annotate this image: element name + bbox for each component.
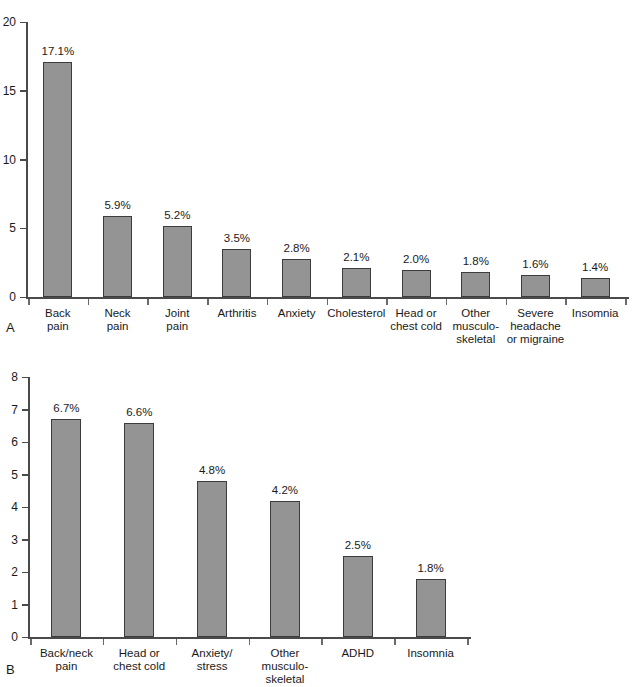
y-axis-line bbox=[28, 377, 30, 639]
bar-value-label: 6.7% bbox=[36, 403, 96, 415]
x-axis-category-label: Severe headache or migraine bbox=[502, 307, 570, 346]
y-axis-tick bbox=[22, 442, 28, 444]
bar bbox=[342, 268, 371, 297]
bar bbox=[282, 259, 311, 298]
y-axis-tick-label: 3 bbox=[0, 534, 18, 546]
x-axis-category-label: Other musculo- skeletal bbox=[442, 307, 510, 346]
bar-value-label: 4.2% bbox=[255, 485, 315, 497]
y-axis-tick-label: 7 bbox=[0, 404, 18, 416]
bar bbox=[43, 62, 72, 297]
bar bbox=[402, 270, 431, 298]
bar-value-label: 1.6% bbox=[505, 259, 565, 271]
x-axis-category-label: Head or chest cold bbox=[99, 647, 180, 673]
bar-value-label: 1.8% bbox=[401, 563, 461, 575]
x-axis-tick bbox=[467, 639, 469, 645]
x-axis-tick bbox=[506, 299, 508, 305]
bar-value-label: 5.2% bbox=[147, 210, 207, 222]
bar bbox=[51, 419, 81, 637]
bar-value-label: 17.1% bbox=[28, 46, 88, 58]
y-axis-tick bbox=[20, 90, 26, 92]
chart-panel-a: A 0510152017.1%Back pain5.9%Neck pain5.2… bbox=[0, 0, 633, 350]
bar bbox=[222, 249, 251, 297]
bar bbox=[416, 579, 446, 638]
x-axis-tick bbox=[28, 299, 30, 305]
y-axis-tick-label: 0 bbox=[0, 291, 16, 303]
y-axis-tick bbox=[20, 159, 26, 161]
bar-value-label: 1.8% bbox=[446, 256, 506, 268]
bar-value-label: 2.1% bbox=[326, 252, 386, 264]
panel-b-letter: B bbox=[6, 662, 15, 677]
panel-a-letter: A bbox=[6, 320, 15, 335]
bar bbox=[581, 278, 610, 297]
y-axis-tick-label: 5 bbox=[0, 469, 18, 481]
y-axis-tick-label: 2 bbox=[0, 566, 18, 578]
y-axis-line bbox=[26, 22, 28, 299]
bar bbox=[163, 226, 192, 298]
y-axis-tick bbox=[20, 297, 26, 299]
x-axis-tick bbox=[394, 639, 396, 645]
y-axis-tick bbox=[22, 539, 28, 541]
x-axis-tick bbox=[30, 639, 32, 645]
figure-two-bar-charts: A 0510152017.1%Back pain5.9%Neck pain5.2… bbox=[0, 0, 633, 687]
y-axis-tick-label: 1 bbox=[0, 599, 18, 611]
x-axis-category-label: Neck pain bbox=[84, 307, 152, 333]
y-axis-tick-label: 0 bbox=[0, 631, 18, 643]
bar bbox=[521, 275, 550, 297]
bar-value-label: 2.0% bbox=[386, 254, 446, 266]
bar-value-label: 2.5% bbox=[328, 540, 388, 552]
bar bbox=[461, 272, 490, 297]
y-axis-tick-label: 6 bbox=[0, 436, 18, 448]
x-axis-category-label: Anxiety/ stress bbox=[172, 647, 253, 673]
bar-value-label: 5.9% bbox=[88, 200, 148, 212]
x-axis-tick bbox=[103, 639, 105, 645]
y-axis-tick bbox=[22, 507, 28, 509]
bar-value-label: 1.4% bbox=[565, 262, 625, 274]
x-axis-category-label: Other musculo- skeletal bbox=[245, 647, 326, 686]
x-axis-tick bbox=[625, 299, 627, 305]
x-axis-tick bbox=[565, 299, 567, 305]
x-axis-category-label: Cholesterol bbox=[323, 307, 391, 320]
bar-value-label: 4.8% bbox=[182, 465, 242, 477]
y-axis-tick bbox=[20, 22, 26, 24]
x-axis-category-label: Back pain bbox=[24, 307, 92, 333]
y-axis-tick-label: 15 bbox=[0, 85, 16, 97]
x-axis-tick bbox=[446, 299, 448, 305]
y-axis-tick-label: 4 bbox=[0, 501, 18, 513]
bar bbox=[197, 481, 227, 637]
y-axis-tick-label: 5 bbox=[0, 222, 16, 234]
y-axis-tick-label: 8 bbox=[0, 371, 18, 383]
y-axis-tick bbox=[20, 228, 26, 230]
y-axis-tick bbox=[22, 474, 28, 476]
x-axis-category-label: Insomnia bbox=[390, 647, 471, 660]
bar bbox=[124, 423, 154, 638]
x-axis-tick bbox=[147, 299, 149, 305]
x-axis-tick bbox=[321, 639, 323, 645]
x-axis-tick bbox=[249, 639, 251, 645]
bar-value-label: 6.6% bbox=[109, 407, 169, 419]
bar bbox=[343, 556, 373, 637]
x-axis-category-label: Head or chest cold bbox=[382, 307, 450, 333]
x-axis-tick bbox=[207, 299, 209, 305]
x-axis-tick bbox=[327, 299, 329, 305]
x-axis-tick bbox=[176, 639, 178, 645]
x-axis-category-label: Arthritis bbox=[203, 307, 271, 320]
y-axis-tick bbox=[22, 572, 28, 574]
y-axis-tick bbox=[22, 604, 28, 606]
x-axis-tick bbox=[88, 299, 90, 305]
x-axis-category-label: Back/neck pain bbox=[26, 647, 107, 673]
y-axis-tick-label: 10 bbox=[0, 154, 16, 166]
bar bbox=[103, 216, 132, 297]
bar-value-label: 3.5% bbox=[207, 233, 267, 245]
y-axis-tick bbox=[22, 637, 28, 639]
y-axis-tick bbox=[22, 409, 28, 411]
chart-panel-b: B 0123456786.7%Back/neck pain6.6%Head or… bbox=[0, 350, 633, 687]
x-axis-category-label: Insomnia bbox=[561, 307, 629, 320]
y-axis-tick bbox=[22, 377, 28, 379]
bar bbox=[270, 501, 300, 638]
bar-value-label: 2.8% bbox=[267, 243, 327, 255]
x-axis-tick bbox=[267, 299, 269, 305]
x-axis-tick bbox=[386, 299, 388, 305]
x-axis-category-label: ADHD bbox=[317, 647, 398, 660]
y-axis-tick-label: 20 bbox=[0, 16, 16, 28]
x-axis-category-label: Anxiety bbox=[263, 307, 331, 320]
